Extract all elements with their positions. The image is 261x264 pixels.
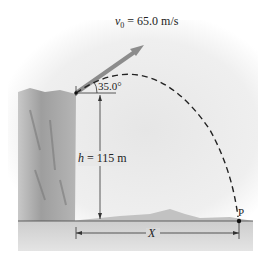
launch-point [74, 91, 78, 95]
distance-label: X [148, 226, 155, 241]
velocity-label: v0 = 65.0 m/s [115, 14, 178, 30]
ground [18, 221, 253, 251]
cliff [18, 88, 76, 221]
landing-point-label: P [238, 206, 244, 218]
height-label: h = 115 m [78, 151, 127, 166]
projectile-diagram: v0 = 65.0 m/s 35.0° h = 115 m X P [0, 0, 261, 264]
landing-point [237, 219, 241, 223]
diagram-graphics [0, 0, 261, 264]
angle-label: 35.0° [98, 80, 122, 92]
